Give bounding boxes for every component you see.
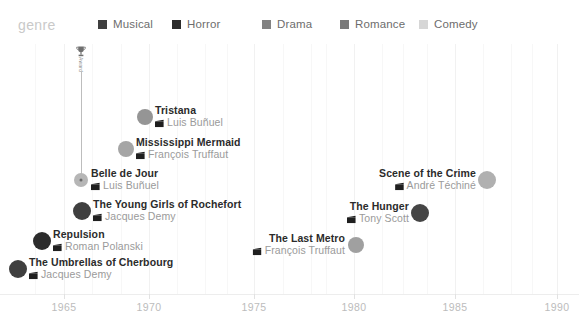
x-axis-tick (455, 294, 456, 299)
x-axis-tick-label: 1985 (443, 301, 468, 313)
point-title: The Umbrellas of Cherbourg (29, 257, 173, 269)
clapperboard-icon (253, 247, 262, 255)
x-axis-tick (149, 294, 150, 299)
point-label: The Last MetroFrançois Truffaut (253, 233, 345, 257)
point-label: Mississippi MermaidFrançois Truffaut (136, 137, 241, 161)
clapperboard-icon (53, 243, 62, 251)
point-label: Scene of the CrimeAndré Téchiné (379, 168, 476, 192)
point-title: The Last Metro (253, 233, 345, 245)
point-label: The Umbrellas of CherbourgJacques Demy (29, 257, 173, 281)
legend-item-horror[interactable]: Horror (172, 18, 221, 30)
point-label: TristanaLuis Buñuel (155, 105, 223, 129)
legend-swatch-icon (419, 20, 428, 29)
clapperboard-icon (93, 213, 102, 221)
clapperboard-icon (155, 119, 164, 127)
x-axis-line (0, 294, 579, 295)
gridline (205, 44, 206, 294)
legend: genre MusicalHorrorDramaRomanceComedy (0, 16, 579, 38)
gridline (511, 44, 512, 294)
plot-area: Award The Umbrellas of CherbourgJacques … (0, 44, 579, 294)
point-label: The HungerTony Scott (347, 201, 409, 225)
point-title: Scene of the Crime (379, 168, 476, 180)
point-title: Tristana (155, 105, 223, 117)
data-point[interactable] (9, 260, 27, 278)
gridline (532, 44, 533, 294)
data-point[interactable] (348, 237, 364, 253)
x-axis: 196519701975198019851990 (0, 294, 579, 325)
point-label: Belle de JourLuis Buñuel (91, 168, 159, 192)
data-point[interactable] (33, 232, 51, 250)
data-point[interactable] (137, 109, 153, 125)
clapperboard-icon (91, 182, 100, 190)
legend-swatch-icon (98, 20, 107, 29)
legend-item-label: Comedy (434, 18, 478, 30)
data-point-highlight-core (80, 179, 83, 182)
gridline (177, 44, 178, 294)
data-point[interactable] (73, 202, 91, 220)
legend-item-comedy[interactable]: Comedy (419, 18, 478, 30)
x-axis-tick-label: 1970 (137, 301, 162, 313)
point-label: RepulsionRoman Polanski (53, 229, 143, 253)
point-title: Repulsion (53, 229, 143, 241)
annotation-label: Award (78, 57, 84, 72)
legend-title: genre (18, 17, 56, 33)
x-axis-tick (354, 294, 355, 299)
legend-swatch-icon (340, 20, 349, 29)
legend-item-musical[interactable]: Musical (98, 18, 153, 30)
point-label: The Young Girls of RochefortJacques Demy (93, 199, 241, 223)
data-point[interactable] (118, 141, 134, 157)
point-director: Jacques Demy (41, 269, 112, 281)
point-director: Jacques Demy (105, 211, 176, 223)
point-director: Luis Buñuel (167, 117, 223, 129)
x-axis-tick-label: 1965 (52, 301, 77, 313)
legend-swatch-icon (262, 20, 271, 29)
gridline (354, 44, 355, 294)
point-title: The Young Girls of Rochefort (93, 199, 241, 211)
point-title: Belle de Jour (91, 168, 159, 180)
clapperboard-icon (136, 151, 145, 159)
point-director: Tony Scott (359, 213, 409, 225)
legend-item-label: Musical (113, 18, 153, 30)
legend-item-romance[interactable]: Romance (340, 18, 405, 30)
point-director: François Truffaut (148, 149, 228, 161)
gridline (557, 44, 558, 294)
data-point[interactable] (478, 171, 496, 189)
data-point[interactable] (411, 204, 429, 222)
point-director: André Téchiné (407, 180, 476, 192)
gridline (227, 44, 228, 294)
clapperboard-icon (395, 182, 404, 190)
legend-item-label: Drama (277, 18, 312, 30)
legend-item-label: Romance (355, 18, 405, 30)
point-director: François Truffaut (265, 245, 345, 257)
point-title: Mississippi Mermaid (136, 137, 241, 149)
x-axis-tick (254, 294, 255, 299)
legend-swatch-icon (172, 20, 181, 29)
legend-item-label: Horror (187, 18, 221, 30)
x-axis-tick-label: 1990 (545, 301, 570, 313)
x-axis-tick-label: 1980 (342, 301, 367, 313)
x-axis-tick-label: 1975 (242, 301, 267, 313)
point-director: Roman Polanski (65, 241, 143, 253)
clapperboard-icon (29, 271, 38, 279)
clapperboard-icon (347, 215, 356, 223)
x-axis-tick (557, 294, 558, 299)
legend-item-drama[interactable]: Drama (262, 18, 312, 30)
annotation-connector-line (81, 72, 82, 180)
point-director: Luis Buñuel (103, 180, 159, 192)
chart-canvas: genre MusicalHorrorDramaRomanceComedy Aw… (0, 0, 579, 325)
point-title: The Hunger (347, 201, 409, 213)
x-axis-tick (64, 294, 65, 299)
gridline (483, 44, 484, 294)
